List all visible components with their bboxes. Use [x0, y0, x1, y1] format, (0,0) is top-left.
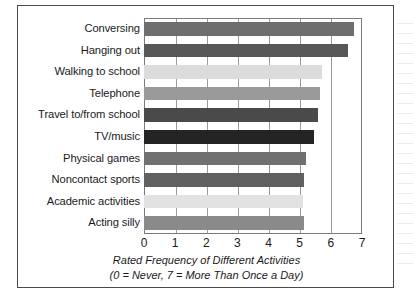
x-tick-label-1: 1 — [165, 236, 185, 250]
bar-row — [144, 126, 362, 148]
y-axis-labels: ConversingHanging outWalking to schoolTe… — [18, 18, 140, 234]
y-axis-label: Acting silly — [18, 212, 140, 234]
x-axis-caption: Rated Frequency of Different Activities … — [18, 253, 395, 282]
x-tick-label-7: 7 — [352, 236, 372, 250]
bar-row — [144, 104, 362, 126]
y-axis-label: Travel to/from school — [18, 104, 140, 126]
x-tick-label-0: 0 — [134, 236, 154, 250]
y-axis-label: Walking to school — [18, 61, 140, 83]
bar-row — [144, 212, 362, 234]
x-tick-label-6: 6 — [321, 236, 341, 250]
x-axis-ticks: 01234567 — [144, 236, 362, 252]
bars-layer — [144, 18, 362, 234]
bar-row — [144, 191, 362, 213]
y-axis-label: Academic activities — [18, 191, 140, 213]
x-tick-label-2: 2 — [196, 236, 216, 250]
bar-row — [144, 148, 362, 170]
x-tick-label-4: 4 — [259, 236, 279, 250]
bar — [144, 44, 348, 58]
y-axis-label: Conversing — [18, 18, 140, 40]
bar — [144, 87, 320, 101]
bar-row — [144, 83, 362, 105]
bar — [144, 216, 304, 230]
y-axis-label: Physical games — [18, 148, 140, 170]
x-axis-title: Rated Frequency of Different Activities — [18, 253, 395, 268]
bar-chart: ConversingHanging outWalking to schoolTe… — [18, 6, 395, 289]
bar-row — [144, 40, 362, 62]
bar — [144, 130, 314, 144]
y-axis-label: TV/music — [18, 126, 140, 148]
y-axis-label: Telephone — [18, 83, 140, 105]
x-tick-label-5: 5 — [290, 236, 310, 250]
figure-frame: ConversingHanging outWalking to schoolTe… — [17, 5, 394, 288]
y-axis-label: Noncontact sports — [18, 169, 140, 191]
y-axis-label: Hanging out — [18, 40, 140, 62]
page-bleed-artifact — [397, 14, 413, 264]
bar — [144, 108, 318, 122]
bar — [144, 65, 322, 79]
bar — [144, 22, 354, 36]
x-tick-label-3: 3 — [227, 236, 247, 250]
bar — [144, 152, 306, 166]
bar-row — [144, 18, 362, 40]
bar-row — [144, 61, 362, 83]
bar — [144, 173, 304, 187]
bar-row — [144, 169, 362, 191]
x-axis-scale-note: (0 = Never, 7 = More Than Once a Day) — [18, 268, 395, 283]
bar — [144, 195, 303, 209]
